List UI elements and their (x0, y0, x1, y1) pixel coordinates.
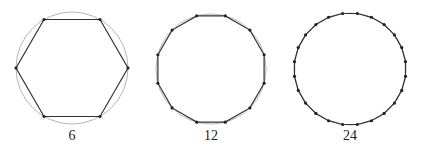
vertex-dot (248, 106, 251, 109)
vertex-dot (263, 53, 266, 56)
inscribed-polygon (16, 20, 128, 117)
vertex-dot (404, 75, 407, 78)
vertex-dot (195, 121, 198, 124)
vertex-dot (263, 82, 266, 85)
vertex-dot (14, 66, 17, 69)
vertex-dot (98, 18, 101, 21)
vertex-dot (156, 53, 159, 56)
vertex-dot (382, 112, 385, 115)
vertex-dot (356, 12, 359, 15)
vertex-dot (393, 101, 396, 104)
vertex-dot (248, 29, 251, 32)
vertex-dot (327, 16, 330, 19)
polygon-figure-12 (156, 14, 266, 124)
vertex-dot (297, 46, 300, 49)
vertex-dot (171, 106, 174, 109)
vertex-dot (224, 14, 227, 17)
vertex-dot (304, 33, 307, 36)
vertex-dot (404, 60, 407, 63)
vertex-dot (156, 82, 159, 85)
vertex-dot (400, 89, 403, 92)
label-dodecagon: 12 (204, 128, 218, 144)
label-24-gon: 24 (343, 128, 357, 144)
vertex-dot (126, 66, 129, 69)
vertex-dot (304, 101, 307, 104)
vertex-dot (382, 23, 385, 26)
vertex-dot (314, 23, 317, 26)
vertex-dot (293, 75, 296, 78)
vertex-dot (195, 14, 198, 17)
polygon-figure-6 (14, 12, 129, 124)
vertex-dot (42, 115, 45, 118)
vertex-dot (341, 12, 344, 15)
inscribed-polygon (158, 16, 264, 122)
inscribed-polygon (295, 14, 406, 125)
polygon-figure-24 (293, 12, 407, 126)
vertex-dot (327, 119, 330, 122)
vertex-dot (297, 89, 300, 92)
label-hexagon: 6 (69, 128, 76, 144)
vertex-dot (293, 60, 296, 63)
vertex-dot (224, 121, 227, 124)
vertex-dot (314, 112, 317, 115)
vertex-dot (171, 29, 174, 32)
vertex-dot (98, 115, 101, 118)
vertex-dot (400, 46, 403, 49)
vertex-dot (370, 119, 373, 122)
circumscribed-circle (16, 12, 128, 124)
vertex-dot (393, 33, 396, 36)
vertex-dot (341, 123, 344, 126)
vertex-dot (42, 18, 45, 21)
vertex-dot (356, 123, 359, 126)
vertex-dot (370, 16, 373, 19)
